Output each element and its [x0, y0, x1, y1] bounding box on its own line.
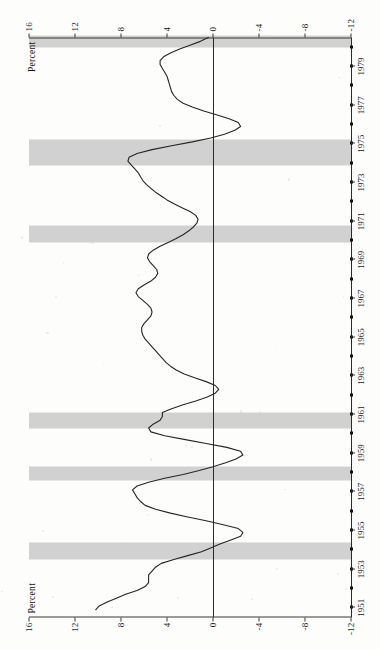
year-tick-label: 1959 — [356, 444, 366, 462]
scan-speckle — [276, 568, 278, 570]
chart-plot-area: 16161212884400-4-4-8-8-12-12 19511953195… — [29, 37, 351, 617]
scan-speckle — [284, 489, 286, 491]
year-marker — [350, 470, 353, 473]
year-tick-mark — [351, 568, 355, 569]
percent-tick-mark — [259, 33, 260, 37]
percent-tick-mark — [121, 33, 122, 37]
percent-tick-mark — [29, 617, 30, 621]
percent-tick-label: -8 — [300, 23, 310, 31]
scan-speckle — [333, 152, 334, 153]
year-tick-label: 1969 — [356, 250, 366, 268]
percent-tick-label: 16 — [24, 22, 34, 31]
percent-tick-mark — [213, 33, 214, 37]
year-tick-label: 1975 — [356, 134, 366, 152]
year-tick-mark — [351, 374, 355, 375]
year-marker — [350, 431, 353, 434]
percent-tick-mark — [75, 617, 76, 621]
percent-tick-mark — [167, 617, 168, 621]
year-marker — [350, 238, 353, 241]
percent-tick-mark — [351, 617, 352, 621]
scan-speckle — [264, 35, 266, 37]
year-tick-label: 1963 — [356, 366, 366, 384]
percent-tick-mark — [305, 617, 306, 621]
year-tick-label: 1953 — [356, 560, 366, 578]
percent-tick-label: -12 — [346, 18, 356, 31]
percent-tick-label: 0 — [208, 622, 218, 627]
year-tick-label: 1971 — [356, 212, 366, 230]
percent-tick-label: 12 — [70, 622, 80, 631]
year-tick-label: 1951 — [356, 598, 366, 616]
scan-speckle — [345, 588, 347, 590]
axis-title-right: Percent — [27, 41, 37, 72]
year-marker — [350, 45, 353, 48]
year-marker — [350, 83, 353, 86]
scan-speckle — [260, 417, 262, 419]
year-tick-mark — [351, 181, 355, 182]
year-marker — [350, 354, 353, 357]
year-tick-label: 1955 — [356, 521, 366, 539]
year-tick-label: 1977 — [356, 96, 366, 114]
percent-tick-label: -8 — [300, 622, 310, 630]
year-marker — [350, 277, 353, 280]
year-marker — [350, 547, 353, 550]
year-tick-mark — [351, 452, 355, 453]
percent-tick-mark — [75, 33, 76, 37]
year-marker — [350, 122, 353, 125]
scan-speckle — [191, 446, 193, 448]
year-tick-label: 1967 — [356, 289, 366, 307]
year-tick-mark — [351, 142, 355, 143]
percent-tick-label: 12 — [70, 22, 80, 31]
scan-speckle — [251, 598, 253, 600]
scanned-page: 16161212884400-4-4-8-8-12-12 19511953195… — [0, 0, 380, 649]
percent-tick-label: 0 — [208, 26, 218, 31]
percent-tick-label: -4 — [254, 622, 264, 630]
scan-speckle — [338, 77, 340, 79]
year-tick-mark — [351, 336, 355, 337]
rotated-figure-stage: 16161212884400-4-4-8-8-12-12 19511953195… — [0, 0, 380, 649]
year-tick-label: 1957 — [356, 482, 366, 500]
percent-tick-mark — [213, 617, 214, 621]
year-tick-mark — [351, 104, 355, 105]
year-marker — [350, 161, 353, 164]
year-tick-mark — [351, 606, 355, 607]
scan-speckle — [288, 178, 290, 180]
axis-title-left: Percent — [27, 582, 37, 613]
year-tick-label: 1961 — [356, 405, 366, 423]
percent-tick-mark — [121, 617, 122, 621]
year-tick-mark — [351, 297, 355, 298]
year-tick-label: 1965 — [356, 328, 366, 346]
year-marker — [350, 586, 353, 589]
data-series-line — [29, 37, 351, 617]
percent-tick-mark — [259, 617, 260, 621]
scan-speckle — [46, 332, 48, 334]
percent-tick-mark — [29, 33, 30, 37]
year-tick-mark — [351, 413, 355, 414]
percent-tick-label: -4 — [254, 23, 264, 31]
percent-tick-mark — [351, 33, 352, 37]
scan-speckle — [138, 274, 139, 275]
year-tick-label: 1973 — [356, 173, 366, 191]
scan-speckle — [177, 597, 179, 599]
percent-tick-label: 16 — [24, 622, 34, 631]
percent-tick-label: -12 — [346, 622, 356, 635]
percent-tick-label: 8 — [116, 26, 126, 31]
year-marker — [350, 315, 353, 318]
year-marker — [350, 393, 353, 396]
year-tick-label: 1979 — [356, 57, 366, 75]
percent-tick-label: 8 — [116, 622, 126, 627]
year-tick-mark — [351, 220, 355, 221]
year-marker — [350, 509, 353, 512]
year-marker — [350, 199, 353, 202]
year-tick-mark — [351, 490, 355, 491]
percent-tick-mark — [167, 33, 168, 37]
year-tick-mark — [351, 258, 355, 259]
year-tick-mark — [351, 529, 355, 530]
percent-tick-mark — [305, 33, 306, 37]
percent-tick-label: 4 — [162, 622, 172, 627]
scan-speckle — [343, 296, 344, 297]
scan-speckle — [55, 296, 57, 298]
percent-tick-label: 4 — [162, 26, 172, 31]
year-tick-mark — [351, 65, 355, 66]
scan-speckle — [159, 125, 161, 127]
scan-speckle — [276, 345, 277, 346]
